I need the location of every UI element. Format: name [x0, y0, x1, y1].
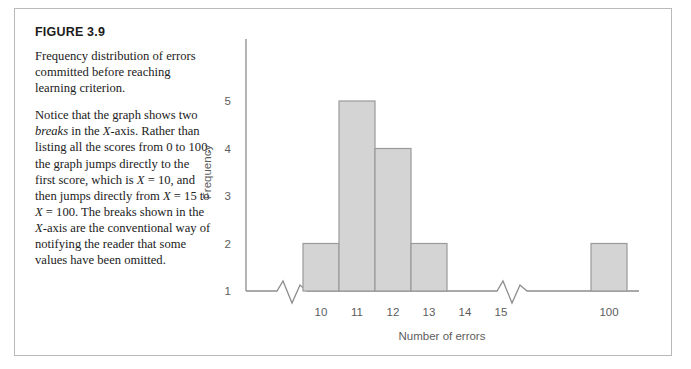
- x-tick-label-12: 12: [387, 306, 400, 318]
- y-tick-label-2: 2: [225, 238, 231, 250]
- x-tick-label-11: 11: [351, 306, 363, 318]
- bar-x13: [411, 244, 447, 292]
- bar-x12: [375, 149, 411, 292]
- histogram-plot-area: 1 2 3 4 5 10 11 12 13 14 15 100 Number o…: [15, 9, 673, 357]
- x-tick-label-100: 100: [599, 306, 618, 318]
- bar-x11: [339, 101, 375, 291]
- x-tick-label-10: 10: [315, 306, 328, 318]
- bar-x100: [591, 244, 627, 292]
- y-axis-title: Frequency: [201, 145, 213, 200]
- y-tick-label-3: 3: [225, 190, 231, 202]
- bar-x10: [303, 244, 339, 292]
- x-tick-label-13: 13: [423, 306, 436, 318]
- figure-frame: FIGURE 3.9 Frequency distribution of err…: [14, 8, 672, 356]
- x-axis-title: Number of errors: [399, 330, 486, 342]
- y-tick-label-4: 4: [225, 143, 232, 155]
- x-tick-label-14: 14: [459, 306, 472, 318]
- x-tick-label-15: 15: [495, 306, 508, 318]
- y-tick-label-1: 1: [225, 285, 231, 297]
- histogram-svg: 1 2 3 4 5 10 11 12 13 14 15 100 Number o…: [15, 9, 673, 357]
- y-tick-label-5: 5: [225, 95, 231, 107]
